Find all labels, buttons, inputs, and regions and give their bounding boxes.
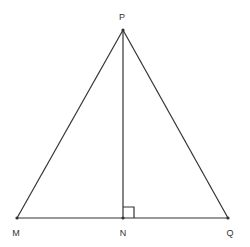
markers bbox=[123, 207, 134, 218]
triangle-diagram: P M N Q bbox=[0, 0, 250, 247]
label-m: M bbox=[12, 228, 20, 238]
label-p: P bbox=[119, 12, 125, 22]
segments bbox=[17, 30, 228, 218]
label-q: Q bbox=[226, 228, 233, 238]
vertex-m bbox=[15, 216, 18, 219]
vertex-p bbox=[121, 28, 124, 31]
right-angle-marker bbox=[123, 207, 134, 218]
vertex-q bbox=[226, 216, 229, 219]
segment-pm bbox=[17, 30, 123, 218]
segment-pq bbox=[123, 30, 228, 218]
vertex-n bbox=[121, 216, 124, 219]
label-n: N bbox=[120, 228, 127, 238]
